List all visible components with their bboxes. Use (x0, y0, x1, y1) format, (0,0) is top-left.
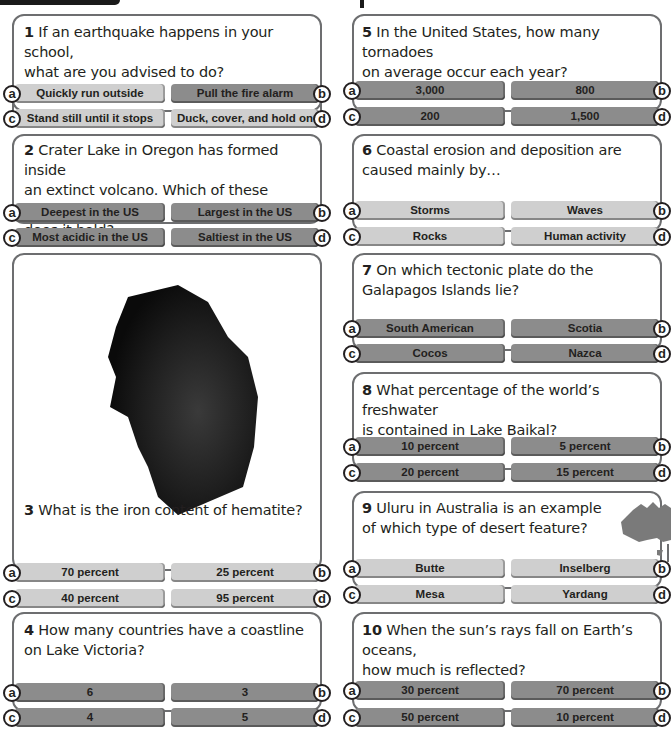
q9-option-d[interactable]: Yardang (511, 585, 659, 604)
q5-option-b[interactable]: 800 (511, 81, 659, 100)
option-b-badge: b (313, 684, 331, 702)
question-8-text: 8 What percentage of the world’s freshwa… (362, 380, 662, 440)
q7-option-b[interactable]: Scotia (511, 319, 659, 338)
question-2-text: 2 Crater Lake in Oregon has formed insid… (24, 140, 324, 240)
option-c-badge: c (3, 590, 21, 608)
q10-option-a[interactable]: 30 percent (355, 681, 505, 700)
q6-option-b[interactable]: Waves (511, 201, 659, 220)
question-4-text: 4 How many countries have a coastline on… (24, 620, 324, 660)
q2-option-b[interactable]: Largest in the US (171, 203, 319, 222)
option-d-badge: d (313, 110, 331, 128)
option-d-badge: d (313, 709, 331, 727)
q3-option-d[interactable]: 95 percent (171, 589, 319, 608)
q5-option-d[interactable]: 1,500 (511, 107, 659, 126)
option-c-badge: c (343, 586, 361, 604)
question-1-text: 1 If an earthquake happens in your schoo… (24, 22, 324, 82)
option-a-badge: a (343, 438, 361, 456)
option-b-badge: b (653, 320, 671, 338)
option-c-badge: c (3, 709, 21, 727)
q3-option-c[interactable]: 40 percent (15, 589, 165, 608)
option-a-badge: a (343, 82, 361, 100)
hematite-rock-image (68, 277, 268, 517)
option-d-badge: d (653, 345, 671, 363)
q1-option-b[interactable]: Pull the fire alarm (171, 84, 319, 103)
q9-option-a[interactable]: Butte (355, 559, 505, 578)
q6-option-a[interactable]: Storms (355, 201, 505, 220)
q10-option-c[interactable]: 50 percent (355, 708, 505, 727)
option-b-badge: b (653, 202, 671, 220)
q3-option-a[interactable]: 70 percent (15, 563, 165, 582)
q6-option-d[interactable]: Human activity (511, 227, 659, 246)
q8-option-a[interactable]: 10 percent (355, 437, 505, 456)
option-d-badge: d (653, 709, 671, 727)
q5-option-c[interactable]: 200 (355, 107, 505, 126)
q10-option-b[interactable]: 70 percent (511, 681, 659, 700)
option-d-badge: d (313, 229, 331, 247)
option-b-badge: b (653, 82, 671, 100)
option-a-badge: a (343, 682, 361, 700)
option-d-badge: d (653, 586, 671, 604)
q4-option-b[interactable]: 3 (171, 683, 319, 702)
q3-option-b[interactable]: 25 percent (171, 563, 319, 582)
q6-option-c[interactable]: Rocks (355, 227, 505, 246)
header-decoration (0, 0, 120, 5)
option-d-badge: d (653, 228, 671, 246)
option-a-badge: a (343, 560, 361, 578)
q10-option-d[interactable]: 10 percent (511, 708, 659, 727)
option-c-badge: c (3, 229, 21, 247)
q7-option-c[interactable]: Cocos (355, 344, 505, 363)
question-6-text: 6 Coastal erosion and deposition are cau… (362, 140, 662, 180)
q9-option-c[interactable]: Mesa (355, 585, 505, 604)
q4-option-a[interactable]: 6 (15, 683, 165, 702)
q8-option-c[interactable]: 20 percent (355, 463, 505, 482)
q1-option-d[interactable]: Duck, cover, and hold on (171, 109, 319, 128)
option-d-badge: d (653, 464, 671, 482)
option-a-badge: a (343, 320, 361, 338)
question-7-text: 7 On which tectonic plate do the Galapag… (362, 260, 662, 300)
option-a-badge: a (3, 204, 21, 222)
option-c-badge: c (3, 110, 21, 128)
q1-option-c[interactable]: Stand still until it stops (15, 109, 165, 128)
option-a-badge: a (3, 85, 21, 103)
option-b-badge: b (313, 85, 331, 103)
q8-option-d[interactable]: 15 percent (511, 463, 659, 482)
q7-option-d[interactable]: Nazca (511, 344, 659, 363)
option-a-badge: a (3, 684, 21, 702)
q4-option-d[interactable]: 5 (171, 708, 319, 727)
option-c-badge: c (343, 464, 361, 482)
q2-option-c[interactable]: Most acidic in the US (15, 228, 165, 247)
option-d-badge: d (653, 108, 671, 126)
option-c-badge: c (343, 228, 361, 246)
option-c-badge: c (343, 709, 361, 727)
option-b-badge: b (653, 438, 671, 456)
question-3-text: 3 What is the iron content of hematite? (24, 500, 324, 520)
q2-option-a[interactable]: Deepest in the US (15, 203, 165, 222)
option-a-badge: a (343, 202, 361, 220)
question-9-text: 9 Uluru in Australia is an example of wh… (362, 498, 662, 538)
option-b-badge: b (313, 564, 331, 582)
option-a-badge: a (3, 564, 21, 582)
q4-option-c[interactable]: 4 (15, 708, 165, 727)
q8-option-b[interactable]: 5 percent (511, 437, 659, 456)
option-b-badge: b (653, 682, 671, 700)
q5-option-a[interactable]: 3,000 (355, 81, 505, 100)
option-b-badge: b (653, 560, 671, 578)
header-tick (360, 0, 364, 8)
q1-option-a[interactable]: Quickly run outside (15, 84, 165, 103)
question-number: 1 (24, 24, 34, 40)
question-5-text: 5 In the United States, how many tornado… (362, 22, 662, 82)
option-c-badge: c (343, 345, 361, 363)
option-c-badge: c (343, 108, 361, 126)
option-d-badge: d (313, 590, 331, 608)
option-b-badge: b (313, 204, 331, 222)
q7-option-a[interactable]: South American (355, 319, 505, 338)
question-10-text: 10 When the sun’s rays fall on Earth’s o… (362, 620, 662, 680)
q2-option-d[interactable]: Saltiest in the US (171, 228, 319, 247)
q9-option-b[interactable]: Inselberg (511, 559, 659, 578)
